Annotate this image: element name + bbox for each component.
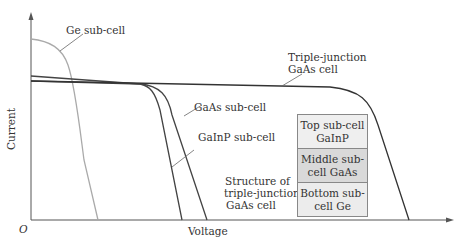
middle-subcell-line2: cell GaAs	[298, 166, 367, 179]
triple-leader-line	[282, 74, 302, 86]
x-axis-label: Voltage	[188, 225, 228, 237]
top-subcell-line2: GaInP	[298, 132, 367, 145]
triple-label-line2: GaAs cell	[288, 63, 338, 75]
bottom-subcell-line1: Bottom sub-	[298, 187, 367, 200]
top-subcell-line1: Top sub-cell	[298, 119, 367, 132]
ge-leader-line	[60, 34, 83, 51]
gaas-subcell-curve	[31, 76, 182, 220]
iv-curve-diagram: Ge sub-cell Triple-junction GaAs cell Ga…	[0, 0, 461, 246]
x-axis-arrow-icon	[446, 218, 454, 223]
ge-subcell-curve	[31, 39, 98, 220]
y-axis-label: Current	[5, 108, 17, 150]
middle-subcell-line1: Middle sub-	[298, 153, 367, 166]
bottom-subcell-line2: cell Ge	[298, 200, 367, 213]
triple-label-line1: Triple-junction	[288, 51, 367, 63]
gainp-subcell-curve	[31, 81, 207, 220]
gaas-subcell-label: GaAs sub-cell	[194, 101, 266, 113]
structure-middle-subcell: Middle sub- cell GaAs	[297, 148, 368, 183]
origin-label: O	[19, 223, 28, 235]
ge-subcell-label: Ge sub-cell	[66, 24, 125, 36]
structure-label-line1: Structure of	[225, 175, 290, 187]
gainp-subcell-label: GaInP sub-cell	[198, 131, 275, 143]
gainp-leader-line	[172, 150, 194, 167]
structure-bottom-subcell: Bottom sub- cell Ge	[297, 182, 368, 217]
y-axis-arrow-icon	[29, 12, 34, 20]
structure-label-line3: GaAs cell	[226, 199, 276, 211]
structure-top-subcell: Top sub-cell GaInP	[297, 114, 368, 149]
structure-label-line2: triple-junction	[224, 187, 300, 199]
